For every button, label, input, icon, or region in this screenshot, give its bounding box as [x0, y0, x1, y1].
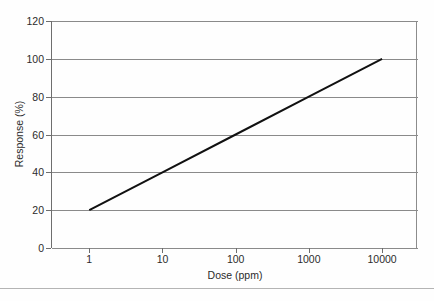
x-axis-title: Dose (ppm) [135, 269, 335, 281]
x-axis-tick-label: 100 [206, 254, 266, 265]
y-axis-tick-label: 0 [12, 243, 44, 254]
gridline-y [52, 210, 418, 211]
x-axis-tick-label: 10 [132, 254, 192, 265]
y-axis-tick [46, 248, 51, 249]
x-axis-tick-label: 1 [59, 254, 119, 265]
y-axis-title: Response (%) [13, 79, 25, 189]
y-axis-tick-label: 120 [12, 16, 44, 27]
gridline-y [52, 21, 418, 22]
plot-area [51, 21, 417, 248]
x-axis-tick-label: 10000 [352, 254, 412, 265]
y-axis-tick-label: 20 [12, 205, 44, 216]
gridline-y [52, 97, 418, 98]
chart-figure: 020406080100120 110100100010000 Response… [0, 0, 434, 301]
y-axis-tick-label: 100 [12, 54, 44, 65]
gridline-y [52, 172, 418, 173]
gridline-y [52, 135, 418, 136]
footer-rule [0, 288, 434, 289]
x-axis-tick-label: 1000 [279, 254, 339, 265]
gridline-y [52, 59, 418, 60]
